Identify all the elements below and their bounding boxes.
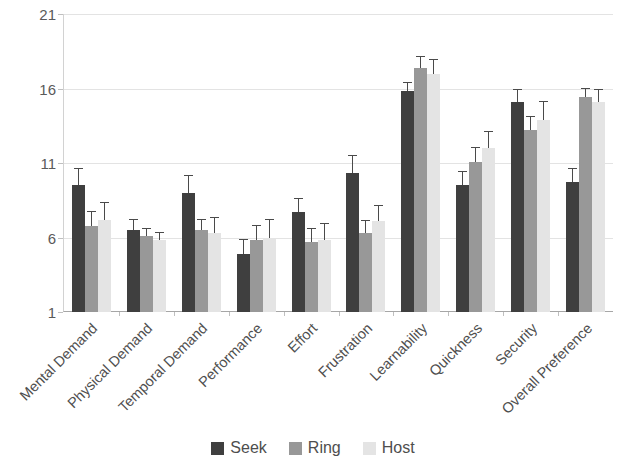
error-bar-cap [348,155,357,156]
bar-host [482,14,495,312]
bar-host [537,14,550,312]
bar-group [339,14,394,312]
bar-ring [85,14,98,312]
error-bar [433,60,434,73]
bar-ring [524,14,537,312]
error-bar-cap [374,205,383,206]
error-bar [543,102,544,120]
bar-rect [524,130,537,312]
bar-rect [182,193,195,312]
bar-seek [566,14,579,312]
legend-swatch-icon [363,442,376,455]
bar-rect [427,74,440,312]
bar-rect [592,102,605,312]
bar-rect [414,68,427,312]
bar-chart: 16111621 Mental DemandPhysical DemandTem… [0,0,626,472]
bar-rect [153,240,166,312]
bar-rect [140,236,153,312]
error-bar [572,169,573,182]
legend-item-ring[interactable]: Ring [289,440,341,456]
legend-swatch-icon [211,442,224,455]
bar-host [153,14,166,312]
error-bar [420,57,421,67]
bar-ring [579,14,592,312]
bar-seek [456,14,469,312]
error-bar [311,229,312,242]
legend-label: Host [382,440,415,456]
error-bar [324,224,325,240]
error-bar-cap [252,225,261,226]
error-bar [585,89,586,98]
bar-group [229,14,284,312]
bar-seek [511,14,524,312]
error-bar [475,148,476,161]
bar-host [98,14,111,312]
bar-ring [305,14,318,312]
bar-host [263,14,276,312]
error-bar-cap [484,131,493,132]
bar-ring [414,14,427,312]
error-bar-cap [539,101,548,102]
y-axis-tick-label: 6 [48,230,56,245]
bar-host [318,14,331,312]
error-bar [462,172,463,185]
error-bar-cap [594,89,603,90]
legend-item-host[interactable]: Host [363,440,415,456]
legend-swatch-icon [289,442,302,455]
error-bar-cap [320,223,329,224]
bar-host [208,14,221,312]
error-bar [352,156,353,174]
bar-seek [182,14,195,312]
bar-ring [140,14,153,312]
bar-ring [195,14,208,312]
bar-rect [72,185,85,312]
legend-item-seek[interactable]: Seek [211,440,266,456]
bar-rect [469,162,482,312]
error-bar [598,90,599,102]
error-bar [133,220,134,230]
error-bar [243,240,244,253]
x-axis-tick-label: Quickness [426,320,485,379]
error-bar-cap [429,59,438,60]
bar-rect [346,173,359,312]
error-bar [378,206,379,221]
error-bar-cap [458,171,467,172]
error-bar [91,212,92,225]
bar-rect [456,185,469,312]
error-bar [517,90,518,102]
bar-groups [64,14,613,312]
legend-label: Ring [308,440,341,456]
bar-rect [511,102,524,312]
bar-rect [195,230,208,312]
bar-group [558,14,613,312]
error-bar [298,199,299,212]
error-bar [530,117,531,130]
error-bar-cap [87,211,96,212]
bar-rect [85,226,98,312]
bar-host [592,14,605,312]
bar-rect [359,233,372,312]
error-bar-cap [74,168,83,169]
bar-rect [579,97,592,312]
error-bar-cap [265,219,274,220]
error-bar-cap [307,228,316,229]
bar-rect [98,220,111,312]
chart-legend: SeekRingHost [0,440,626,456]
legend-label: Seek [230,440,266,456]
y-axis-tick-label: 16 [39,81,56,96]
error-bar [365,221,366,233]
error-bar [188,176,189,192]
bar-group [503,14,558,312]
x-axis-tick-label: Security [492,320,540,368]
bar-rect [237,254,250,312]
error-bar [146,229,147,236]
bar-group [174,14,229,312]
bar-host [372,14,385,312]
y-axis-tick-label: 21 [39,7,56,22]
error-bar-cap [155,232,164,233]
error-bar-cap [581,88,590,89]
bar-seek [346,14,359,312]
bar-rect [127,230,140,312]
bar-ring [469,14,482,312]
error-bar-cap [129,219,138,220]
